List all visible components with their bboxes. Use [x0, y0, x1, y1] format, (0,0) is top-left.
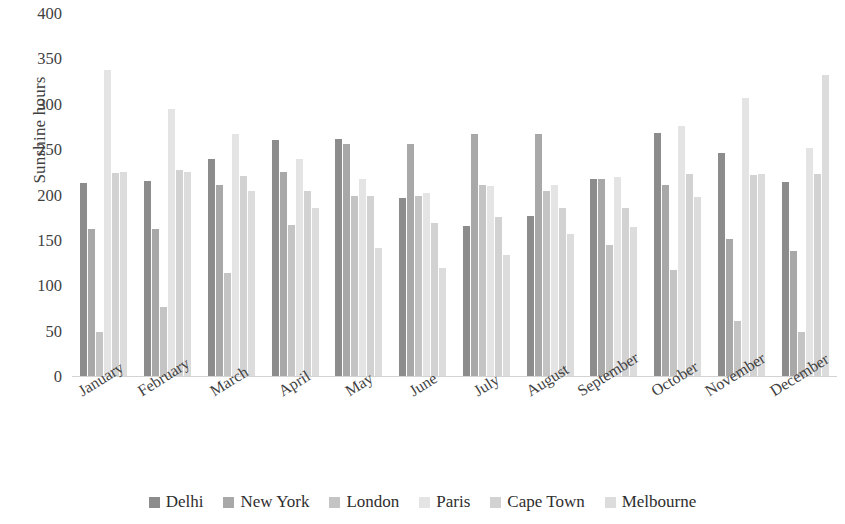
- bar[interactable]: [407, 144, 414, 377]
- bar[interactable]: [415, 196, 422, 378]
- bar[interactable]: [367, 196, 374, 378]
- bar[interactable]: [168, 109, 175, 377]
- bar[interactable]: [463, 226, 470, 377]
- bar[interactable]: [567, 234, 574, 377]
- bar[interactable]: [216, 185, 223, 377]
- bar[interactable]: [495, 217, 502, 377]
- bar[interactable]: [80, 183, 87, 377]
- sunshine-hours-bar-chart: Sunshine hours 400350300250200150100500 …: [0, 0, 845, 524]
- bar[interactable]: [439, 268, 446, 377]
- bar[interactable]: [678, 126, 685, 377]
- bar[interactable]: [479, 185, 486, 377]
- bar[interactable]: [312, 208, 319, 377]
- bar[interactable]: [224, 273, 231, 377]
- bar[interactable]: [543, 191, 550, 377]
- bar[interactable]: [503, 255, 510, 378]
- bar[interactable]: [399, 198, 406, 377]
- bar[interactable]: [654, 133, 661, 377]
- x-axis-tick-labels: JanuaryFebruaryMarchAprilMayJuneJulyAugu…: [72, 381, 837, 476]
- bar[interactable]: [176, 170, 183, 377]
- bar[interactable]: [726, 239, 733, 377]
- bar[interactable]: [822, 75, 829, 377]
- legend-item-label: Paris: [436, 492, 470, 512]
- legend-item-delhi[interactable]: Delhi: [149, 492, 204, 512]
- bar[interactable]: [527, 216, 534, 377]
- x-axis-tick-cell: November: [710, 381, 774, 476]
- bar[interactable]: [487, 186, 494, 377]
- y-axis-tick-100: 100: [2, 276, 62, 296]
- bar[interactable]: [272, 140, 279, 377]
- bar-group: [200, 14, 264, 377]
- legend-swatch-icon: [419, 497, 430, 508]
- bar[interactable]: [280, 172, 287, 377]
- bar[interactable]: [662, 185, 669, 377]
- bar[interactable]: [208, 159, 215, 377]
- legend-item-new-york[interactable]: New York: [223, 492, 309, 512]
- x-axis-tick-cell: July: [455, 381, 519, 476]
- bar[interactable]: [694, 197, 701, 377]
- bar-group: [455, 14, 519, 377]
- x-axis-tick-cell: August: [518, 381, 582, 476]
- y-axis-tick-300: 300: [2, 95, 62, 115]
- y-axis-tick-0: 0: [2, 367, 62, 387]
- x-axis-tick-cell: June: [391, 381, 455, 476]
- bar[interactable]: [296, 159, 303, 377]
- bar[interactable]: [343, 144, 350, 377]
- x-axis-tick-cell: March: [200, 381, 264, 476]
- bar[interactable]: [742, 98, 749, 377]
- bar[interactable]: [375, 248, 382, 377]
- bar[interactable]: [351, 196, 358, 378]
- bar[interactable]: [814, 174, 821, 377]
- bar[interactable]: [670, 270, 677, 377]
- bar[interactable]: [304, 191, 311, 377]
- bar-group: [710, 14, 774, 377]
- bar[interactable]: [806, 148, 813, 377]
- bar[interactable]: [423, 193, 430, 377]
- bar[interactable]: [104, 70, 111, 377]
- legend-item-label: Delhi: [166, 492, 204, 512]
- bar[interactable]: [606, 245, 613, 377]
- bar-groups: [72, 14, 837, 377]
- legend-item-cape-town[interactable]: Cape Town: [490, 492, 584, 512]
- legend-swatch-icon: [490, 497, 501, 508]
- legend-item-melbourne[interactable]: Melbourne: [605, 492, 697, 512]
- bar[interactable]: [782, 182, 789, 377]
- bar[interactable]: [790, 251, 797, 377]
- bar[interactable]: [590, 179, 597, 377]
- bar[interactable]: [184, 172, 191, 377]
- bar[interactable]: [614, 177, 621, 377]
- bar[interactable]: [240, 176, 247, 377]
- bar[interactable]: [686, 174, 693, 377]
- bar[interactable]: [750, 175, 757, 377]
- bar[interactable]: [758, 174, 765, 377]
- bar[interactable]: [471, 134, 478, 377]
- bar[interactable]: [120, 172, 127, 377]
- bar-group: [582, 14, 646, 377]
- bar[interactable]: [431, 223, 438, 377]
- y-axis-tick-labels: 400350300250200150100500: [0, 0, 68, 524]
- bar[interactable]: [152, 229, 159, 377]
- bar[interactable]: [535, 134, 542, 377]
- bar[interactable]: [248, 191, 255, 377]
- bar[interactable]: [88, 229, 95, 377]
- bar[interactable]: [335, 139, 342, 377]
- bar[interactable]: [288, 225, 295, 377]
- legend-item-london[interactable]: London: [329, 492, 399, 512]
- bar[interactable]: [112, 173, 119, 377]
- x-axis-tick-cell: October: [646, 381, 710, 476]
- bar[interactable]: [559, 208, 566, 377]
- bar[interactable]: [551, 185, 558, 377]
- bar[interactable]: [359, 179, 366, 377]
- bar[interactable]: [144, 181, 151, 377]
- legend-item-label: London: [346, 492, 399, 512]
- x-axis-tick-cell: December: [773, 381, 837, 476]
- y-axis-tick-150: 150: [2, 231, 62, 251]
- bar[interactable]: [598, 179, 605, 377]
- bar[interactable]: [718, 153, 725, 377]
- y-axis-tick-50: 50: [2, 322, 62, 342]
- bar[interactable]: [232, 134, 239, 377]
- y-axis-tick-400: 400: [2, 4, 62, 24]
- legend-swatch-icon: [149, 497, 160, 508]
- legend-item-paris[interactable]: Paris: [419, 492, 470, 512]
- chart-legend: DelhiNew YorkLondonParisCape TownMelbour…: [0, 492, 845, 512]
